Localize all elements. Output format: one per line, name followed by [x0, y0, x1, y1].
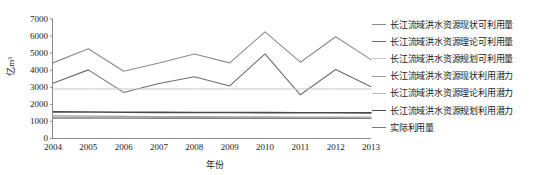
legend-label: 实际利用量: [390, 123, 434, 133]
legend-label: 长江流域洪水资源现状可利用量: [390, 20, 513, 30]
legend-item[interactable]: 长江流域洪水资源理论可利用量: [372, 33, 540, 50]
legend-line-icon: [372, 76, 386, 77]
legend-line-icon: [372, 110, 386, 111]
x-tick-label: 2008: [174, 143, 214, 152]
legend-label: 长江流域洪水资源规划利用潜力: [390, 106, 513, 116]
x-tick-label: 2005: [68, 143, 108, 152]
legend-line-icon: [372, 58, 386, 59]
chart-figure: 亿m³ 01000200030004000500060007000 200420…: [0, 0, 540, 175]
x-tick-label: 2006: [104, 143, 144, 152]
legend-item[interactable]: 长江流域洪水资源规划利用潜力: [372, 102, 540, 119]
legend-line-icon: [372, 24, 386, 25]
legend-item[interactable]: 实际利用量: [372, 119, 540, 136]
legend-item[interactable]: 长江流域洪水资源理论利用潜力: [372, 85, 540, 102]
chart-legend: 长江流域洪水资源现状可利用量长江流域洪水资源理论可利用量长江流域洪水资源规划可利…: [372, 16, 540, 136]
x-tick-label: 2010: [245, 143, 285, 152]
x-tick-label: 2012: [316, 143, 356, 152]
x-tick-label: 2011: [280, 143, 320, 152]
legend-item[interactable]: 长江流域洪水资源现状可利用量: [372, 16, 540, 33]
x-tick-label: 2004: [33, 143, 73, 152]
x-tick-label: 2009: [210, 143, 250, 152]
x-axis-title: 年份: [155, 158, 275, 171]
x-tick-label: 2013: [351, 143, 391, 152]
legend-line-icon: [372, 41, 386, 42]
legend-line-icon: [372, 93, 386, 94]
legend-label: 长江流域洪水资源理论可利用量: [390, 37, 513, 47]
legend-label: 长江流域洪水资源理论利用潜力: [390, 88, 513, 98]
legend-label: 长江流域洪水资源现状利用潜力: [390, 71, 513, 81]
legend-item[interactable]: 长江流域洪水资源现状利用潜力: [372, 68, 540, 85]
legend-label: 长江流域洪水资源规划可利用量: [390, 54, 513, 64]
x-tick-label: 2007: [139, 143, 179, 152]
legend-line-icon: [372, 127, 386, 128]
legend-item[interactable]: 长江流域洪水资源规划可利用量: [372, 50, 540, 67]
